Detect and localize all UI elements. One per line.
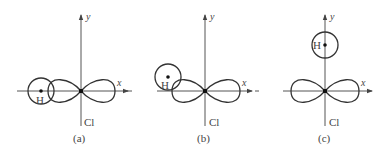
y-axis-label: y	[209, 11, 215, 22]
h-nucleus	[323, 43, 327, 47]
x-axis-label: x	[116, 77, 122, 88]
cl-nucleus	[79, 89, 83, 93]
panel-c: H x y Cl (c)	[255, 11, 372, 145]
caption-b: (b)	[197, 132, 210, 145]
cl-nucleus	[323, 89, 327, 93]
x-axis-label: x	[241, 77, 247, 88]
y-axis-label: y	[329, 11, 335, 22]
orbital-overlap-diagram: H x y Cl (a) H x y Cl (b) H x y Cl (c)	[0, 0, 384, 155]
cl-label: Cl	[84, 116, 94, 128]
cl-label: Cl	[329, 116, 339, 128]
h-nucleus	[39, 89, 43, 93]
h-label: H	[161, 79, 169, 91]
h-label: H	[36, 94, 44, 106]
caption-c: (c)	[318, 132, 331, 145]
panel-a: H x y Cl (a)	[17, 11, 128, 145]
cl-label: Cl	[209, 116, 219, 128]
y-axis-label: y	[85, 11, 91, 22]
x-axis-label: x	[360, 77, 366, 88]
panel-b: H x y Cl (b)	[127, 11, 252, 145]
h-label: H	[313, 39, 321, 51]
cl-nucleus	[203, 89, 207, 93]
caption-a: (a)	[73, 132, 86, 145]
